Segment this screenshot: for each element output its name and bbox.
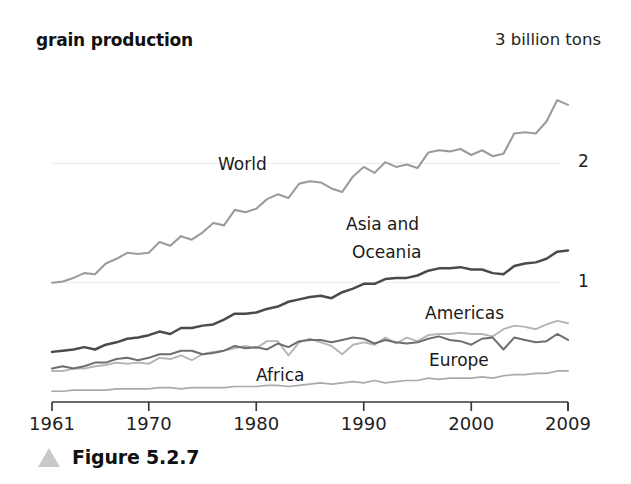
series-label-americas: Americas: [425, 302, 504, 325]
x-tick-label-1990: 1990: [336, 413, 392, 434]
series-label-asia-line1: Asia and: [346, 213, 419, 236]
y-gridline-label-1: 1: [578, 271, 589, 291]
x-tick-label-1961: 1961: [24, 413, 80, 434]
series-line-africa: [52, 371, 568, 391]
y-gridline-label-2: 2: [578, 151, 589, 171]
series-label-world: World: [218, 153, 267, 176]
line-chart-plot: [0, 0, 631, 484]
figure-caption-text: Figure 5.2.7: [72, 446, 199, 468]
series-label-asia-line2: Oceania: [352, 241, 422, 264]
triangle-up-icon: [38, 448, 60, 467]
x-tick-label-2000: 2000: [443, 413, 499, 434]
figure-container: grain production 3 billion tons 19611970…: [0, 0, 631, 484]
x-tick-label-2009: 2009: [540, 413, 596, 434]
series-line-world: [52, 100, 568, 283]
figure-caption: Figure 5.2.7: [38, 446, 199, 468]
series-label-africa: Africa: [256, 364, 305, 387]
series-line-americas: [52, 321, 568, 371]
series-label-europe: Europe: [429, 349, 489, 372]
x-tick-label-1980: 1980: [228, 413, 284, 434]
x-tick-label-1970: 1970: [121, 413, 177, 434]
